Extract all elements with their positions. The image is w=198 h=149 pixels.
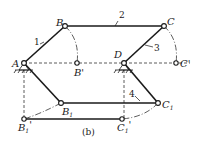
label-c: C (167, 16, 175, 27)
label-b-prime: B' (73, 67, 84, 78)
leader-4 (135, 96, 140, 101)
arc-c-to-cprime (164, 26, 177, 63)
leader-1 (40, 42, 44, 44)
label-a: A (11, 58, 19, 69)
joint-a (22, 61, 27, 66)
leader-3 (145, 45, 153, 47)
label-link-4: 4 (129, 89, 135, 99)
label-d: D (113, 49, 122, 60)
joint-b1-prime (22, 117, 26, 121)
label-b1: B1 (61, 106, 73, 118)
arc-c1-to-c1prime (122, 103, 158, 119)
joint-c1 (156, 101, 161, 106)
four-bar-linkage-diagram: B C A D B' C' B1 C1 B1' C1' 1 2 3 4 (b) (0, 0, 198, 149)
arc-b1-to-b1prime (24, 103, 61, 119)
joint-c (162, 24, 167, 29)
label-link-3: 3 (154, 43, 160, 53)
joint-c-prime (174, 61, 178, 65)
label-b: B (55, 17, 63, 28)
label-c1: C1 (162, 99, 173, 111)
arc-b-to-bprime (65, 26, 78, 63)
joint-b1 (59, 101, 64, 106)
label-link-1: 1 (34, 37, 40, 47)
joint-d (122, 61, 127, 66)
label-link-2: 2 (119, 10, 125, 20)
label-c-prime: C' (180, 58, 190, 69)
label-b1-prime: B1' (17, 119, 32, 134)
figure-caption: (b) (82, 127, 95, 137)
joint-b-prime (75, 61, 79, 65)
label-c1-prime: C1' (117, 119, 131, 134)
joint-c1-prime (120, 117, 124, 121)
link-ab1 (24, 63, 61, 103)
link-1-ab (24, 26, 65, 63)
